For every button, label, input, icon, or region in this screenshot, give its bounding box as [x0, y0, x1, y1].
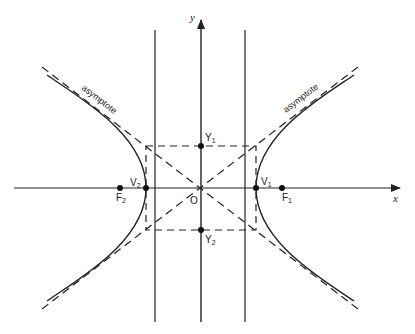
vertex-v2-dot: [143, 185, 149, 191]
point-y2-dot: [198, 227, 204, 233]
y-axis-label: y: [189, 11, 195, 23]
f1-label: F1: [282, 192, 292, 204]
vertex-v1-dot: [253, 185, 259, 191]
f2-label: F2: [116, 192, 126, 204]
v2-label: V2: [130, 177, 141, 189]
x-axis-label: x: [392, 192, 398, 204]
asymptote-right-label: asymptote: [281, 81, 320, 114]
v1-label: V1: [261, 176, 272, 188]
focus-f1-dot: [279, 185, 285, 191]
hyperbola-diagram: y x O V1 V2 F1 F2 Y1 Y2 asymptote asympt…: [0, 0, 415, 334]
focus-f2-dot: [117, 185, 123, 191]
origin-label: O: [190, 195, 198, 206]
y1-label: Y1: [205, 132, 216, 144]
y2-label: Y2: [205, 234, 216, 246]
point-y1-dot: [198, 143, 204, 149]
